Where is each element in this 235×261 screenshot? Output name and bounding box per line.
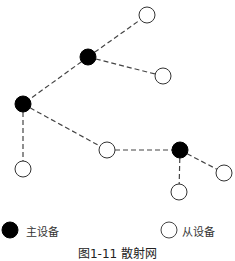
edge-layer [23,15,224,192]
master-legend-label: 主设备 [26,223,59,239]
slave-legend-label: 从设备 [182,223,215,239]
master-node-m3 [172,142,188,158]
figure-caption: 图1-11 散射网 [0,244,235,261]
slave-node-s4 [99,142,115,158]
edge-m1-m2 [23,57,88,104]
slave-node-s1 [139,7,155,23]
master-legend-icon [2,222,18,238]
slave-node-s5 [171,184,187,200]
edge-m1-s1 [88,15,147,57]
master-node-m2 [15,96,31,112]
slave-legend-icon [161,222,177,238]
slave-node-s6 [216,165,232,181]
node-layer [15,7,232,200]
master-node-m1 [80,49,96,65]
slave-node-s3 [15,161,31,177]
edge-m1-s2 [88,57,163,76]
slave-node-s2 [155,68,171,84]
edge-m2-s4 [23,104,107,150]
